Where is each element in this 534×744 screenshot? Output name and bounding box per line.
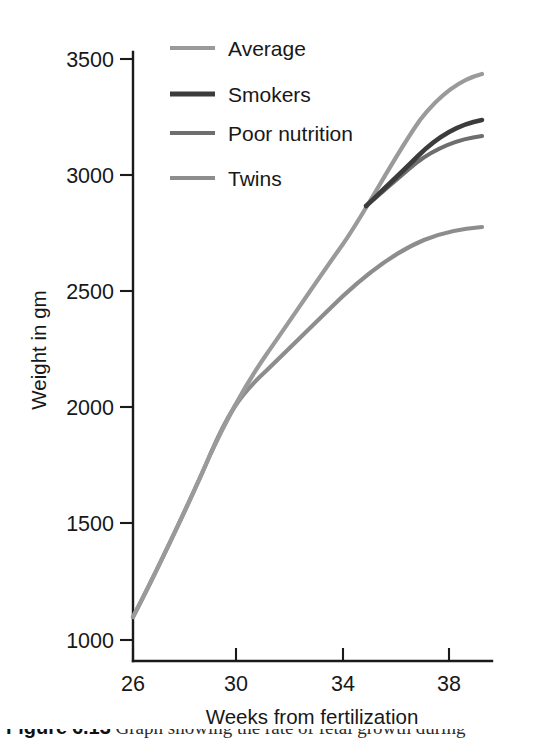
figure-caption-label: Figure bbox=[6, 729, 67, 738]
legend-label-twins: Twins bbox=[228, 167, 282, 190]
y-tick-label-2000: 2000 bbox=[66, 396, 114, 420]
legend-label-smokers: Smokers bbox=[228, 83, 311, 106]
y-axis-title: Weight in gm bbox=[27, 290, 50, 409]
y-tick-label-1500: 1500 bbox=[66, 512, 114, 536]
figure-caption-strip: Figure 6.13 Graph showing the rate of fe… bbox=[0, 729, 534, 744]
x-axis-ticks bbox=[133, 648, 449, 661]
y-tick-label-2500: 2500 bbox=[66, 280, 114, 304]
figure-caption: Figure 6.13 Graph showing the rate of fe… bbox=[6, 729, 465, 739]
y-tick-label-3500: 3500 bbox=[66, 48, 114, 72]
x-tick-label-30: 30 bbox=[224, 672, 248, 696]
series-line-twins bbox=[133, 227, 482, 617]
figure-caption-number: 6.13 bbox=[72, 729, 111, 738]
x-tick-label-26: 26 bbox=[121, 672, 145, 696]
legend-label-average: Average bbox=[228, 37, 306, 60]
legend-label-poor-nutrition: Poor nutrition bbox=[228, 122, 353, 145]
chart-legend: Average Smokers Poor nutrition Twins bbox=[170, 37, 353, 190]
y-axis-ticks bbox=[120, 59, 133, 640]
y-tick-label-3000: 3000 bbox=[66, 164, 114, 188]
x-tick-label-34: 34 bbox=[331, 672, 355, 696]
series-line-poor-nutrition bbox=[366, 136, 482, 206]
figure-caption-text: Graph showing the rate of fetal growth d… bbox=[116, 729, 466, 738]
x-tick-label-38: 38 bbox=[437, 672, 461, 696]
growth-chart: 1000 1500 2000 2500 3000 3500 26 30 34 3… bbox=[0, 0, 534, 744]
figure-container: 1000 1500 2000 2500 3000 3500 26 30 34 3… bbox=[0, 0, 534, 744]
y-tick-label-1000: 1000 bbox=[66, 629, 114, 653]
x-axis-title: Weeks from fertilization bbox=[206, 705, 419, 728]
